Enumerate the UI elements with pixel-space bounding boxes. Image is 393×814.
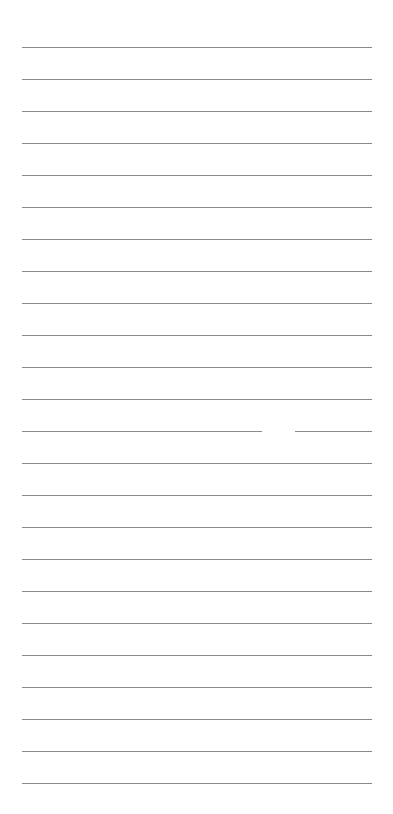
ruled-line (22, 527, 372, 528)
ruled-line (22, 271, 372, 272)
ruled-line (22, 495, 372, 496)
ruled-line (22, 431, 372, 432)
ruled-line (22, 175, 372, 176)
ruled-line (22, 111, 372, 112)
ruled-line (22, 207, 372, 208)
ruled-line (22, 47, 372, 48)
ruled-line (22, 239, 372, 240)
ruled-line (22, 559, 372, 560)
ruled-line (22, 335, 372, 336)
ruled-line (22, 303, 372, 304)
ruled-line (22, 751, 372, 752)
ruled-line (22, 399, 372, 400)
ruled-line (22, 463, 372, 464)
ruled-line (22, 79, 372, 80)
ruled-line (22, 143, 372, 144)
ruled-line (22, 687, 372, 688)
line-gap (262, 430, 295, 433)
ruled-line (22, 783, 372, 784)
ruled-line (22, 655, 372, 656)
ruled-line (22, 623, 372, 624)
ruled-line (22, 591, 372, 592)
ruled-line (22, 367, 372, 368)
ruled-line (22, 719, 372, 720)
